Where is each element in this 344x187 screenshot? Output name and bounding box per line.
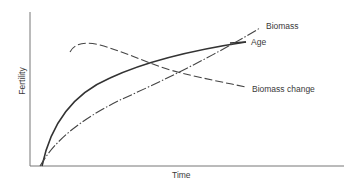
biomass-curve [40, 28, 260, 166]
age-leader [230, 42, 246, 43]
biomass-change-label: Biomass change [252, 84, 315, 94]
y-axis-title: Fertility [17, 61, 27, 101]
biomass-change-curve [70, 43, 246, 87]
biomass-label: Biomass [266, 21, 299, 31]
age-label: Age [251, 37, 266, 47]
x-axis-title: Time [172, 170, 191, 180]
